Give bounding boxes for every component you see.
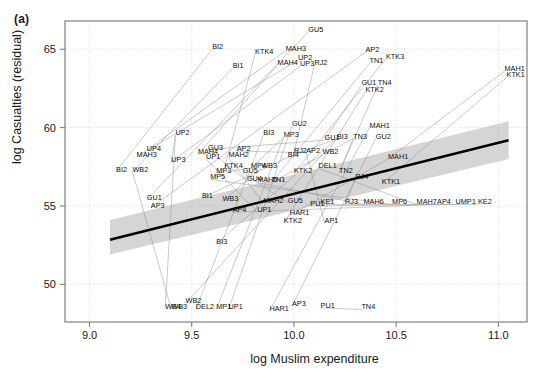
connector-line [294,65,314,153]
point-label: GU5 [308,25,323,34]
y-axis-tick-label: 60 [44,122,56,134]
point-label: MAH2 [229,150,249,159]
point-label: RJ4 [355,172,368,181]
point-label: KTK2 [366,85,384,94]
x-axis-title: log Muslim expenditure [0,352,543,366]
point-label: KTK1 [507,70,525,79]
point-label: KTK4 [255,47,273,56]
point-label: WB2 [323,147,339,156]
point-label: TN4 [361,302,375,311]
point-label: AP4 [437,197,451,206]
point-label: TN1 [370,56,384,65]
point-label: BI4 [288,150,299,159]
point-label: BI3 [216,237,227,246]
scatter-plot-canvas: GU5BI2KTK4MAH3AP2KTK3UP2MAH4UP3RJ2TN1BI1… [0,0,543,385]
point-label: PU1 [321,301,335,310]
point-label: MAH4 [278,58,298,67]
x-axis-tick-label: 10.5 [385,329,406,341]
point-label: UMP1 [455,197,475,206]
point-label: UP1 [229,302,243,311]
connector-line [147,60,298,151]
point-label: MAH1 [388,152,408,161]
point-label: MAH3 [137,150,157,159]
point-label: UP1 [206,152,220,161]
point-label: MP5 [210,172,225,181]
x-axis-tick-label: 11.0 [488,329,509,341]
y-axis-tick-label: 65 [44,43,56,55]
point-label: KTK2 [284,216,302,225]
connector-line [137,51,286,158]
point-label: WB2 [132,165,148,174]
point-label: BI1 [233,61,244,70]
point-label: UP2 [175,128,189,137]
point-label: WB3 [261,161,277,170]
point-label: AP2 [366,45,380,54]
point-label: GU2 [376,132,391,141]
point-label: AP4 [233,205,247,214]
point-label: MAH2 [263,196,283,205]
point-label: MAH1 [370,121,390,130]
point-label: GU2 [292,119,307,128]
point-label: MP6 [392,197,407,206]
point-label: AP3 [151,201,165,210]
point-label: AP1 [325,216,339,225]
x-axis-title-text: log Muslim expenditure [250,352,379,366]
point-label: AP3 [292,299,306,308]
x-axis-tick-label: 9.5 [184,329,199,341]
point-label: DEL1 [318,161,336,170]
connector-line [171,66,300,162]
point-label: GU5 [288,196,303,205]
y-axis-title: log Casualties (residual) [0,90,117,110]
point-label: TN1 [271,175,285,184]
point-label: MAH7 [417,197,437,206]
point-label: WB3 [222,194,238,203]
point-label: MAH6 [363,197,383,206]
point-label: KTK1 [382,177,400,186]
point-label: UP1 [257,205,271,214]
point-label: MAH3 [286,44,306,53]
point-label: UP3 [300,59,314,68]
point-label: TN3 [353,132,367,141]
point-label: MP3 [284,130,299,139]
point-label: KTK2 [294,166,312,175]
point-label: HAR1 [269,304,288,313]
connector-line [198,65,278,154]
figure-panel-a: (a) GU5BI2KTK4MAH3AP2KTK3UP2MAH4UP3RJ2TN… [0,0,543,385]
x-axis-tick-label: 9.0 [82,329,97,341]
point-label: WB2 [186,296,202,305]
point-label: RJ3 [345,197,358,206]
point-label: BI2 [116,165,127,174]
x-axis-tick-label: 10.0 [283,329,304,341]
point-label: PU1 [310,199,324,208]
point-label: AP2 [306,146,320,155]
point-label: BI3 [263,128,274,137]
point-label: UP3 [171,155,185,164]
point-label: GU1 [325,133,340,142]
y-axis-tick-label: 55 [44,200,56,212]
y-axis-title-text: log Casualties (residual) [10,0,24,197]
point-label: TN2 [339,166,353,175]
point-label: KE2 [478,197,492,206]
y-axis-tick-label: 50 [44,278,56,290]
point-label: RJ2 [314,58,327,67]
point-label: BI2 [212,42,223,51]
point-label: BI1 [202,191,213,200]
point-label: KTK3 [386,52,404,61]
regression-line [110,140,509,240]
point-label: HAR1 [290,208,309,217]
